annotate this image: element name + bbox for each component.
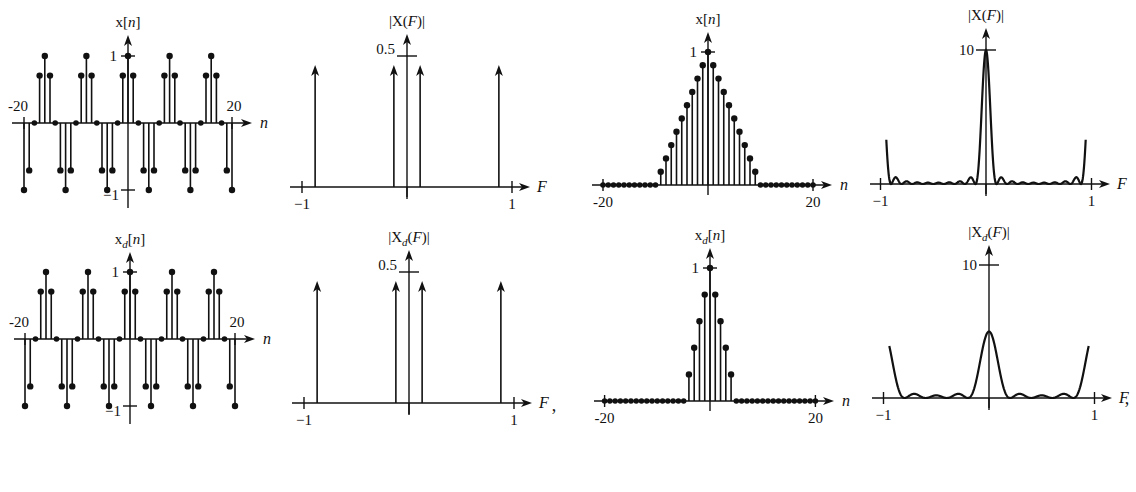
stem-marker — [83, 53, 89, 59]
stem-marker — [712, 291, 718, 297]
stem-marker — [792, 398, 798, 404]
panel-title: |X(F)| — [389, 13, 425, 30]
stem-marker — [658, 169, 664, 175]
panel-p3: nx[n]-20201 — [592, 11, 848, 210]
panel-title: |X(F)| — [968, 7, 1004, 24]
stem-marker — [768, 182, 774, 188]
stem-marker — [130, 72, 136, 78]
x-axis-label: n — [840, 176, 848, 193]
stem-marker — [136, 120, 142, 126]
stem-marker — [805, 182, 811, 188]
stem-marker — [227, 383, 233, 389]
stem-marker — [57, 167, 63, 173]
stem-marker — [211, 269, 217, 275]
y-tick-label: 1 — [112, 264, 120, 280]
stem-marker — [752, 169, 758, 175]
stem-marker — [159, 336, 165, 342]
stem-marker — [206, 288, 212, 294]
stem-marker — [637, 182, 643, 188]
stem-marker — [180, 336, 186, 342]
stem-marker — [36, 72, 42, 78]
stem-marker — [75, 336, 81, 342]
stem-marker — [185, 383, 191, 389]
stem-marker — [700, 62, 706, 68]
panel-p6: F|Xd(F)|−110.5 — [292, 229, 549, 428]
panel-title: xd[n] — [695, 227, 726, 246]
stem-marker — [48, 288, 54, 294]
stem-marker — [85, 269, 91, 275]
stem-marker — [605, 182, 611, 188]
stem-marker — [111, 383, 117, 389]
stem-marker — [776, 398, 782, 404]
figure-canvas: nx[n]-20201−1F|X(F)|−110.5nx[n]-20201F|X… — [0, 0, 1136, 492]
stem-marker — [673, 129, 679, 135]
stem-marker — [43, 269, 49, 275]
stem-marker — [42, 53, 48, 59]
stem-marker — [807, 398, 813, 404]
stem-marker — [663, 155, 669, 161]
stem-marker — [786, 398, 792, 404]
stem-marker — [810, 182, 816, 188]
panel-p4: F|X(F)|−1110 — [870, 7, 1127, 209]
stem-marker — [161, 72, 167, 78]
stem-marker — [760, 398, 766, 404]
stem-marker — [115, 120, 121, 126]
stem-marker — [779, 182, 785, 188]
stem-marker — [182, 167, 188, 173]
stem-marker — [739, 398, 745, 404]
stem-marker — [736, 129, 742, 135]
stem-marker — [632, 182, 638, 188]
stem-marker — [742, 142, 748, 148]
stem-marker — [679, 115, 685, 121]
panel-p1: nx[n]-20201−1 — [8, 14, 268, 208]
x-tick-label: −1 — [294, 196, 310, 212]
stem-marker — [731, 115, 737, 121]
stem-marker — [120, 72, 126, 78]
stem-marker — [213, 72, 219, 78]
stem-marker — [794, 182, 800, 188]
stem-marker — [726, 102, 732, 108]
stem-marker — [728, 371, 734, 377]
stem-marker — [88, 72, 94, 78]
stem-marker — [216, 288, 222, 294]
stem-marker — [99, 167, 105, 173]
stem-marker — [773, 182, 779, 188]
stem-marker — [125, 53, 131, 59]
panel-title: x[n] — [116, 14, 141, 30]
stem-marker — [80, 288, 86, 294]
stem-marker — [117, 336, 123, 342]
stem-marker — [52, 120, 58, 126]
x-tick-label: −1 — [296, 412, 312, 428]
x-tick-label: 20 — [227, 98, 242, 114]
stem-marker — [621, 182, 627, 188]
stem-marker — [744, 398, 750, 404]
stem-marker — [653, 182, 659, 188]
stem-marker — [755, 398, 761, 404]
stem-marker — [153, 383, 159, 389]
stem-marker — [174, 288, 180, 294]
stem-marker — [628, 398, 634, 404]
x-tick-label: 1 — [1088, 193, 1096, 209]
stem-marker — [602, 398, 608, 404]
y-tick-label: 1 — [110, 48, 118, 64]
stem-marker — [707, 265, 713, 271]
stem-marker — [22, 403, 28, 409]
stem-marker — [668, 142, 674, 148]
stem-marker — [694, 75, 700, 81]
stem-marker — [800, 182, 806, 188]
stem-marker — [686, 371, 692, 377]
stem-marker — [612, 398, 618, 404]
x-tick-label: −1 — [873, 193, 889, 209]
stem-marker — [177, 120, 183, 126]
stem-marker — [670, 398, 676, 404]
stem-marker — [715, 75, 721, 81]
stem-marker — [802, 398, 808, 404]
stem-marker — [64, 403, 70, 409]
x-tick-label: 20 — [806, 194, 821, 210]
stem-marker — [224, 167, 230, 173]
stem-marker — [146, 187, 152, 193]
stem-marker — [172, 72, 178, 78]
x-axis-label: n — [263, 330, 271, 347]
stem-marker — [691, 345, 697, 351]
stem-marker — [122, 288, 128, 294]
